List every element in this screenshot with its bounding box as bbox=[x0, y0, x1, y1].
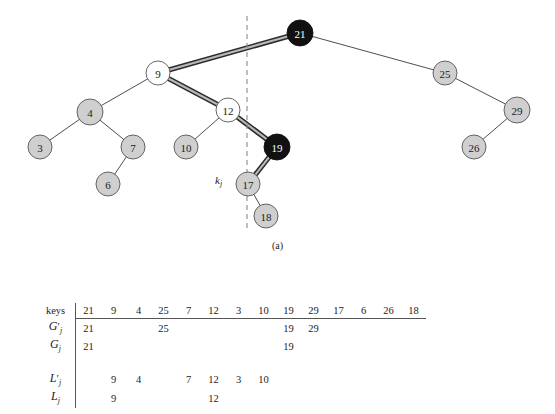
table-cell-r2-c5: 12 bbox=[201, 371, 226, 390]
table-cell-r0-c7 bbox=[251, 319, 276, 338]
table-cell-r0-c8: 19 bbox=[276, 319, 301, 338]
tree-node-key-label: 3 bbox=[37, 142, 43, 154]
table-header-key-2: 4 bbox=[126, 303, 151, 319]
table-cell-r0-c4 bbox=[176, 319, 201, 338]
table-row-label: Gj bbox=[36, 337, 76, 356]
pointer-key-label: kj bbox=[215, 174, 222, 188]
tree-node-21[interactable]: 21 bbox=[287, 20, 313, 46]
tree-node-9[interactable]: 9 bbox=[146, 61, 170, 85]
table-cell-r3-c5: 12 bbox=[201, 389, 226, 408]
table-cell-r0-c1 bbox=[101, 319, 126, 338]
table-cell-r0-c0: 21 bbox=[76, 319, 102, 338]
table-cell-r3-c0 bbox=[76, 389, 102, 408]
table-header-key-11: 6 bbox=[351, 303, 376, 319]
row-label-base: L bbox=[51, 389, 58, 403]
table-cell-r2-c12 bbox=[376, 371, 401, 390]
table-cell-r3-c9 bbox=[301, 389, 326, 408]
table-spacer-label-cell bbox=[36, 356, 76, 371]
table-cell-r1-c2 bbox=[126, 337, 151, 356]
table-cell-r2-c6: 3 bbox=[226, 371, 251, 390]
table-cell-r1-c10 bbox=[326, 337, 351, 356]
table-header-key-1: 9 bbox=[101, 303, 126, 319]
table-body: G′j21251929Gj2119L′j94712310Lj912 bbox=[36, 319, 426, 408]
table-cell-r3-c13 bbox=[401, 389, 426, 408]
table-cell-r1-c8: 19 bbox=[276, 337, 301, 356]
table-cell-r0-c13 bbox=[401, 319, 426, 338]
table-cell-r0-c12 bbox=[376, 319, 401, 338]
table-cell-r2-c7: 10 bbox=[251, 371, 276, 390]
tree-edge bbox=[300, 33, 445, 73]
tree-node-key-label: 6 bbox=[105, 179, 111, 191]
table-header-row: keys 21942571231019291762618 bbox=[36, 303, 426, 319]
table-cell-r3-c1: 9 bbox=[101, 389, 126, 408]
table-cell-r3-c11 bbox=[351, 389, 376, 408]
tree-node-4[interactable]: 4 bbox=[77, 99, 103, 125]
table-row: L′j94712310 bbox=[36, 371, 426, 390]
row-label-base: G bbox=[49, 319, 58, 333]
tree-node-26[interactable]: 26 bbox=[462, 135, 486, 159]
table-header-key-12: 26 bbox=[376, 303, 401, 319]
row-label-subscript: j bbox=[59, 344, 61, 353]
table-header-key-6: 3 bbox=[226, 303, 251, 319]
tree-node-25[interactable]: 25 bbox=[433, 61, 457, 85]
table-cell-r1-c9 bbox=[301, 337, 326, 356]
table-header-key-13: 18 bbox=[401, 303, 426, 319]
table-row-label-text: Lj bbox=[51, 390, 60, 407]
table-row-label: G′j bbox=[36, 319, 76, 338]
tree-node-10[interactable]: 10 bbox=[174, 135, 198, 159]
tree-node-key-label: 29 bbox=[512, 105, 524, 117]
table-header-key-0: 21 bbox=[76, 303, 102, 319]
table-cell-r1-c11 bbox=[351, 337, 376, 356]
tree-node-3[interactable]: 3 bbox=[28, 135, 52, 159]
table-header-keys-label: keys bbox=[36, 303, 76, 319]
table-header-key-7: 10 bbox=[251, 303, 276, 319]
tree-node-key-label: 10 bbox=[181, 142, 193, 154]
table-cell-r1-c5 bbox=[201, 337, 226, 356]
table-cell-r0-c6 bbox=[226, 319, 251, 338]
table-cell-r1-c4 bbox=[176, 337, 201, 356]
figure-binary-search-tree: 21925412293710192661718 kj (a) bbox=[0, 0, 555, 268]
tree-node-key-label: 19 bbox=[272, 142, 284, 154]
table-spacer-cell bbox=[76, 356, 427, 371]
table-cell-r0-c10 bbox=[326, 319, 351, 338]
table-cell-r0-c2 bbox=[126, 319, 151, 338]
table-cell-r0-c5 bbox=[201, 319, 226, 338]
table-cell-r2-c4: 7 bbox=[176, 371, 201, 390]
table-cell-r2-c1: 9 bbox=[101, 371, 126, 390]
table-row-label: L′j bbox=[36, 371, 76, 390]
table-row-label-text: L′j bbox=[50, 372, 61, 389]
table-cell-r3-c12 bbox=[376, 389, 401, 408]
tree-node-17[interactable]: 17 bbox=[236, 172, 260, 196]
tree-node-6[interactable]: 6 bbox=[96, 172, 120, 196]
table-header-key-10: 17 bbox=[326, 303, 351, 319]
keys-table: keys 21942571231019291762618 G′j21251929… bbox=[36, 303, 426, 408]
table-cell-r1-c12 bbox=[376, 337, 401, 356]
table-header-key-9: 29 bbox=[301, 303, 326, 319]
row-label-base: L bbox=[50, 371, 57, 385]
tree-node-7[interactable]: 7 bbox=[121, 135, 145, 159]
tree-node-29[interactable]: 29 bbox=[504, 97, 530, 123]
table-cell-r2-c3 bbox=[151, 371, 176, 390]
tree-node-key-label: 4 bbox=[87, 107, 93, 119]
tree-node-key-label: 25 bbox=[440, 68, 452, 80]
table-header-key-5: 12 bbox=[201, 303, 226, 319]
tree-node-key-label: 9 bbox=[155, 68, 161, 80]
table-header-key-4: 7 bbox=[176, 303, 201, 319]
tree-nodes-group: 21925412293710192661718 bbox=[28, 20, 530, 228]
tree-diagram: 21925412293710192661718 bbox=[0, 0, 555, 268]
row-label-subscript: j bbox=[58, 396, 60, 405]
table-cell-r3-c3 bbox=[151, 389, 176, 408]
tree-edge-highlight-inner bbox=[158, 33, 300, 73]
table-cell-r3-c4 bbox=[176, 389, 201, 408]
table-header-key-8: 19 bbox=[276, 303, 301, 319]
figure-caption: (a) bbox=[0, 240, 555, 251]
table-cell-r1-c7 bbox=[251, 337, 276, 356]
tree-node-key-label: 17 bbox=[243, 179, 255, 191]
tree-node-12[interactable]: 12 bbox=[216, 98, 240, 122]
table-cell-r3-c6 bbox=[226, 389, 251, 408]
tree-node-19[interactable]: 19 bbox=[264, 134, 290, 160]
tree-node-key-label: 21 bbox=[295, 28, 306, 40]
table-cell-r2-c8 bbox=[276, 371, 301, 390]
table-cell-r2-c11 bbox=[351, 371, 376, 390]
tree-node-18[interactable]: 18 bbox=[254, 204, 278, 228]
